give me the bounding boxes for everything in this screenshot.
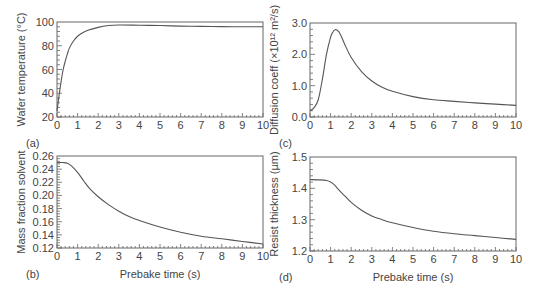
panel-label: (d): [279, 271, 292, 283]
x-tick-label: 4: [136, 250, 142, 262]
y-tick-label: 0.20: [33, 189, 54, 201]
x-tick-label: 6: [178, 119, 184, 131]
x-tick-label: 5: [157, 250, 163, 262]
x-tick-label: 7: [198, 250, 204, 262]
y-tick-label: 0.14: [33, 229, 54, 241]
y-axis-label: Mass fraction solvent: [15, 150, 27, 253]
data-curve: [310, 180, 516, 240]
figure-four-panel-prebake: 01234567891020406080100Wafer temperature…: [0, 0, 543, 291]
x-tick-label: 1: [75, 250, 81, 262]
x-tick-label: 9: [239, 119, 245, 131]
y-tick-label: 0.18: [33, 203, 54, 215]
x-tick-label: 0: [307, 253, 313, 265]
plot-frame: [57, 22, 263, 117]
data-curve: [57, 25, 263, 111]
y-tick-label: 1.2: [292, 245, 307, 257]
x-tick-label: 2: [95, 250, 101, 262]
x-tick-label: 9: [239, 250, 245, 262]
x-tick-label: 6: [178, 250, 184, 262]
x-tick-label: 10: [510, 253, 522, 265]
x-tick-label: 10: [510, 119, 522, 131]
x-tick-label: 7: [198, 119, 204, 131]
x-tick-label: 3: [369, 253, 375, 265]
x-tick-label: 1: [328, 119, 334, 131]
data-curve: [310, 30, 516, 111]
x-tick-label: 7: [451, 119, 457, 131]
panel-label: (b): [26, 268, 39, 280]
y-tick-label: 0.22: [33, 176, 54, 188]
y-tick-label: 0.0: [292, 111, 307, 123]
x-tick-label: 4: [389, 253, 395, 265]
x-tick-label: 7: [451, 253, 457, 265]
y-axis-label: Resist thickness (µm): [268, 151, 280, 256]
x-tick-label: 3: [369, 119, 375, 131]
panel-label: (a): [26, 137, 39, 149]
plot-frame: [310, 23, 516, 117]
y-tick-label: 1.5: [292, 151, 307, 163]
y-tick-label: 3.0: [292, 17, 307, 29]
x-tick-label: 0: [54, 250, 60, 262]
x-tick-label: 3: [116, 250, 122, 262]
y-tick-label: 100: [36, 16, 54, 28]
x-tick-label: 0: [307, 119, 313, 131]
x-tick-label: 6: [431, 119, 437, 131]
x-tick-label: 2: [348, 119, 354, 131]
x-tick-label: 4: [389, 119, 395, 131]
chart-panel-d: 0123456789101.21.31.41.5Resist thickness…: [268, 151, 522, 283]
y-axis-label: Diffusion coeff (×10¹² m²/s): [268, 5, 280, 135]
x-tick-label: 9: [492, 119, 498, 131]
x-tick-label: 5: [410, 119, 416, 131]
chart-panel-b: 0123456789100.120.140.160.180.200.220.24…: [15, 150, 269, 280]
x-tick-label: 5: [410, 253, 416, 265]
x-tick-label: 8: [472, 253, 478, 265]
x-axis-label: Prebake time (s): [373, 271, 454, 283]
x-tick-label: 4: [136, 119, 142, 131]
x-tick-label: 8: [219, 119, 225, 131]
chart-panel-c: 0123456789100.01.02.03.0Diffusion coeff …: [268, 5, 522, 149]
y-tick-label: 40: [42, 87, 54, 99]
plot-frame: [57, 156, 263, 248]
y-tick-label: 1.3: [292, 214, 307, 226]
x-axis-label: Prebake time (s): [120, 268, 201, 280]
y-tick-label: 0.16: [33, 216, 54, 228]
data-curve: [57, 163, 263, 245]
x-tick-label: 1: [328, 253, 334, 265]
x-tick-label: 3: [116, 119, 122, 131]
x-tick-label: 8: [472, 119, 478, 131]
y-tick-label: 0.12: [33, 242, 54, 254]
x-tick-label: 2: [95, 119, 101, 131]
y-tick-label: 20: [42, 111, 54, 123]
x-tick-label: 2: [348, 253, 354, 265]
y-tick-label: 1.0: [292, 80, 307, 92]
y-tick-label: 1.4: [292, 182, 307, 194]
y-axis-label: Wafer temperature (°C): [15, 12, 27, 126]
y-tick-label: 80: [42, 40, 54, 52]
y-tick-label: 0.24: [33, 163, 54, 175]
chart-panel-a: 01234567891020406080100Wafer temperature…: [15, 12, 269, 149]
x-tick-label: 1: [75, 119, 81, 131]
y-tick-label: 60: [42, 64, 54, 76]
x-tick-label: 9: [492, 253, 498, 265]
panel-label: (c): [279, 137, 292, 149]
x-tick-label: 8: [219, 250, 225, 262]
x-tick-label: 5: [157, 119, 163, 131]
y-tick-label: 2.0: [292, 48, 307, 60]
x-tick-label: 6: [431, 253, 437, 265]
y-tick-label: 0.26: [33, 150, 54, 162]
x-tick-label: 0: [54, 119, 60, 131]
